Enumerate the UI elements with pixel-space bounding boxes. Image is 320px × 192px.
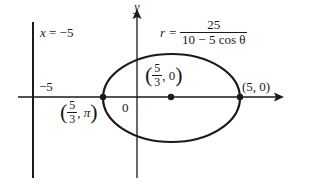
equation-fraction: 25 10 − 5 cos θ [180,18,247,46]
paren-open: ( [145,64,152,86]
left-vertex-label: ( 5 3 , π ) [60,99,98,125]
paren-close: ) [90,101,97,123]
directrix-label-value: = −5 [49,25,73,40]
focus-point [168,94,174,100]
left-vertex-point [100,94,106,100]
left-vertex-fraction: 5 3 [67,99,77,125]
equation-numerator: 25 [205,18,222,32]
focus-frac-num: 5 [152,62,162,75]
y-axis-label: y [134,0,140,13]
origin-label: 0 [122,101,129,114]
left-vertex-frac-num: 5 [67,99,77,112]
paren-open: ( [60,101,67,123]
x-tick-label-neg5: −5 [39,80,53,93]
directrix-label: x = −5 [40,26,73,39]
right-vertex-point [237,94,243,100]
focus-fraction: 5 3 [152,62,162,88]
equation-label: r = 25 10 − 5 cos θ [160,18,247,46]
left-vertex-frac-den: 3 [67,112,77,126]
right-vertex-label: (5, 0) [242,80,270,93]
paren-close: ) [175,64,182,86]
equation-lhs: r = [160,26,177,39]
equation-denominator: 10 − 5 cos θ [180,32,247,47]
focus-point-label: ( 5 3 , 0 ) [145,62,183,88]
directrix-label-var: x [40,25,46,40]
focus-frac-den: 3 [152,75,162,89]
